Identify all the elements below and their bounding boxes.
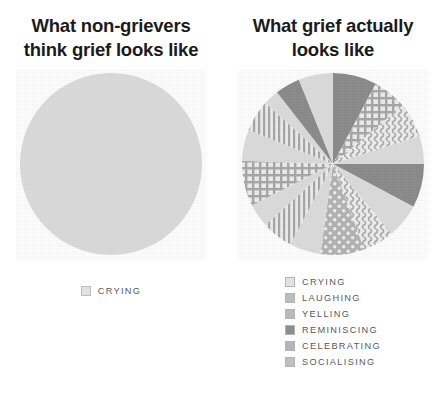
legend-item-socialising: SOCIALISING bbox=[285, 355, 381, 368]
legend-label-yelling: YELLING bbox=[302, 309, 350, 319]
legend-item-crying: CRYING bbox=[285, 275, 381, 288]
yelling-swatch-icon bbox=[285, 309, 295, 319]
right-chart-panel: What grief actually looks like bbox=[222, 0, 444, 412]
legend-item-reminiscing: REMINISCING bbox=[285, 323, 381, 336]
left-pie-chart bbox=[16, 69, 206, 259]
right-pie-svg bbox=[238, 69, 428, 259]
left-chart-title: What non-grievers think grief looks like bbox=[9, 14, 214, 61]
socialising-swatch-icon bbox=[285, 357, 295, 367]
left-pie-svg bbox=[16, 69, 206, 259]
legend-label-celebrating: CELEBRATING bbox=[302, 341, 381, 351]
left-title-line-1: What non-grievers bbox=[9, 14, 214, 38]
legend-label-reminiscing: REMINISCING bbox=[302, 325, 378, 335]
crying-swatch-icon bbox=[285, 277, 295, 287]
legend-item-laughing: LAUGHING bbox=[285, 291, 381, 304]
legend-label-crying: CRYING bbox=[98, 286, 142, 296]
celebrating-swatch-icon bbox=[285, 341, 295, 351]
crying-swatch-icon bbox=[81, 286, 91, 296]
legend-item-crying: CRYING bbox=[81, 284, 142, 297]
right-pie-chart bbox=[238, 69, 428, 259]
right-legend: CRYINGLAUGHINGYELLINGREMINISCINGCELEBRAT… bbox=[285, 275, 381, 368]
legend-label-crying: CRYING bbox=[302, 277, 346, 287]
legend-item-celebrating: CELEBRATING bbox=[285, 339, 381, 352]
legend-label-laughing: LAUGHING bbox=[302, 293, 361, 303]
reminiscing-swatch-icon bbox=[285, 325, 295, 335]
legend-item-yelling: YELLING bbox=[285, 307, 381, 320]
infographic-root: What non-grievers think grief looks like bbox=[0, 0, 444, 412]
legend-label-socialising: SOCIALISING bbox=[302, 357, 376, 367]
right-pie-slice-group bbox=[242, 73, 424, 255]
right-title-line-1: What grief actually bbox=[231, 14, 436, 38]
left-title-line-2: think grief looks like bbox=[9, 38, 214, 62]
left-pie-slice-crying bbox=[20, 73, 202, 255]
right-title-line-2: looks like bbox=[231, 38, 436, 62]
left-legend: CRYING bbox=[81, 284, 142, 297]
laughing-swatch-icon bbox=[285, 293, 295, 303]
right-chart-title: What grief actually looks like bbox=[231, 14, 436, 61]
left-chart-panel: What non-grievers think grief looks like bbox=[0, 0, 222, 412]
